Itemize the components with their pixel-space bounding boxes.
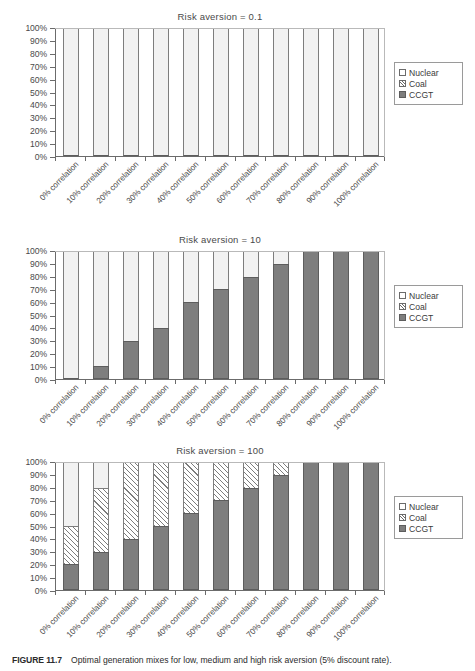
bar-segment-nuclear xyxy=(93,28,109,156)
stacked-bar xyxy=(333,462,349,590)
plot-frame-top xyxy=(55,462,385,463)
stacked-bar xyxy=(93,251,109,379)
bar-segment-coal xyxy=(123,462,139,539)
stacked-bar xyxy=(333,28,349,156)
plot-area xyxy=(55,251,385,380)
bar-segment-ccgt xyxy=(213,289,229,379)
coal-swatch-icon xyxy=(399,514,406,521)
y-axis-tick-label: 80% xyxy=(30,49,47,59)
stacked-bar xyxy=(273,28,289,156)
plot-frame-right xyxy=(384,251,385,380)
y-axis-tick-label: 60% xyxy=(30,509,47,519)
stacked-bar xyxy=(93,462,109,590)
bar-segment-ccgt xyxy=(333,251,349,379)
stacked-bar xyxy=(123,28,139,156)
y-axis-tick-label: 10% xyxy=(30,139,47,149)
bar-segment-nuclear xyxy=(243,251,259,277)
bar-segment-ccgt xyxy=(63,564,79,590)
coal-swatch-icon xyxy=(399,80,406,87)
bar-segment-coal xyxy=(243,462,259,488)
chart-legend: NuclearCoalCCGT xyxy=(394,285,463,328)
bar-segment-nuclear xyxy=(333,28,349,156)
x-axis-labels: 0% correlation10% correlation20% correla… xyxy=(0,594,475,649)
y-axis-tick-label: 60% xyxy=(30,298,47,308)
stacked-bar xyxy=(183,251,199,379)
figure-caption-text: Optimal generation mixes for low, medium… xyxy=(71,655,392,665)
stacked-bar xyxy=(303,251,319,379)
bar-segment-ccgt xyxy=(123,539,139,590)
bar-segment-nuclear xyxy=(243,28,259,156)
legend-item-label: Coal xyxy=(409,302,427,312)
nuclear-swatch-icon xyxy=(399,69,406,76)
legend-item-label: CCGT xyxy=(409,313,433,323)
bar-segment-nuclear xyxy=(183,251,199,302)
bar-segment-nuclear xyxy=(63,251,79,379)
bar-segment-nuclear xyxy=(153,251,169,328)
ccgt-swatch-icon xyxy=(399,525,406,532)
legend-item: Coal xyxy=(399,512,459,523)
stacked-bar xyxy=(243,251,259,379)
stacked-bar xyxy=(183,462,199,590)
bar-segment-nuclear xyxy=(213,251,229,289)
y-axis-tick-label: 30% xyxy=(30,336,47,346)
bar-segment-ccgt xyxy=(363,251,379,379)
stacked-bar xyxy=(363,28,379,156)
y-axis-tick-label: 50% xyxy=(30,311,47,321)
y-axis-tick-label: 90% xyxy=(30,36,47,46)
bar-segment-ccgt xyxy=(363,462,379,590)
y-axis-tick-label: 70% xyxy=(30,496,47,506)
stacked-bar xyxy=(153,462,169,590)
stacked-bar xyxy=(93,28,109,156)
y-axis-tick-label: 20% xyxy=(30,560,47,570)
bar-segment-coal xyxy=(93,488,109,552)
bar-segment-nuclear xyxy=(63,462,79,526)
bar-group xyxy=(56,251,385,379)
stacked-bar xyxy=(213,251,229,379)
stacked-bar xyxy=(123,462,139,590)
chart-legend: NuclearCoalCCGT xyxy=(394,496,463,539)
bar-segment-ccgt xyxy=(243,277,259,379)
figure-caption-label: FIGURE 11.7 xyxy=(12,655,62,665)
bar-segment-nuclear xyxy=(123,28,139,156)
ccgt-swatch-icon xyxy=(399,314,406,321)
legend-item-label: CCGT xyxy=(409,524,433,534)
legend-item: Nuclear xyxy=(399,290,459,301)
ccgt-swatch-icon xyxy=(399,91,406,98)
stacked-bar xyxy=(153,251,169,379)
x-axis-labels: 0% correlation10% correlation20% correla… xyxy=(0,383,475,438)
legend-item-label: Coal xyxy=(409,79,427,89)
stacked-bar xyxy=(213,462,229,590)
bar-segment-nuclear xyxy=(93,462,109,488)
stacked-bar xyxy=(213,28,229,156)
bar-group xyxy=(56,462,385,590)
y-axis-labels: 100%90%80%70%60%50%40%30%20%10%0% xyxy=(0,462,52,591)
legend-item-label: Coal xyxy=(409,513,427,523)
bar-segment-nuclear xyxy=(273,28,289,156)
bar-segment-ccgt xyxy=(243,488,259,590)
bar-segment-nuclear xyxy=(213,28,229,156)
bar-segment-ccgt xyxy=(273,475,289,590)
x-axis-labels: 0% correlation10% correlation20% correla… xyxy=(0,160,475,215)
stacked-bar xyxy=(273,251,289,379)
bar-segment-ccgt xyxy=(183,302,199,379)
stacked-bar xyxy=(333,251,349,379)
bar-segment-ccgt xyxy=(93,552,109,590)
bar-segment-coal xyxy=(153,462,169,526)
legend-item: CCGT xyxy=(399,312,459,323)
legend-item-label: Nuclear xyxy=(409,502,439,512)
figure-11-7: Risk aversion = 0.1 100%90%80%70%60%50%4… xyxy=(0,0,475,671)
legend-item-label: Nuclear xyxy=(409,68,439,78)
y-axis-labels: 100%90%80%70%60%50%40%30%20%10%0% xyxy=(0,28,52,157)
chart-legend: NuclearCoalCCGT xyxy=(394,62,463,105)
y-axis-tick-label: 50% xyxy=(30,88,47,98)
bar-segment-nuclear xyxy=(273,251,289,264)
y-axis-tick-label: 70% xyxy=(30,285,47,295)
bar-segment-coal xyxy=(273,462,289,475)
bar-segment-nuclear xyxy=(63,28,79,156)
bar-segment-nuclear xyxy=(153,28,169,156)
stacked-bar xyxy=(153,28,169,156)
bar-segment-nuclear xyxy=(123,251,139,341)
plot-frame-right xyxy=(384,28,385,157)
stacked-bar xyxy=(303,462,319,590)
bar-segment-nuclear xyxy=(363,28,379,156)
